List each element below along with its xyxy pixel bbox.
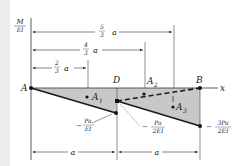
dim-23-num: 2 xyxy=(54,59,59,66)
value-1-num: Pa xyxy=(83,117,92,124)
dim-23-var: a xyxy=(64,64,69,73)
point-a-label: A xyxy=(20,83,28,93)
value-3-sign: − xyxy=(206,123,212,131)
y-label-num: M xyxy=(15,18,24,26)
value-1-sign: − xyxy=(76,122,82,130)
x-axis-label: x xyxy=(220,83,225,93)
point-d-label: D xyxy=(112,75,120,85)
y-label-den: EI xyxy=(16,26,24,33)
value-2-sign: − xyxy=(142,123,148,131)
value-3-den: 2EI xyxy=(217,127,229,134)
area-a3-sub: 3 xyxy=(183,107,187,114)
value-2-den: 2EI xyxy=(152,127,164,134)
area-a2-label: A xyxy=(146,76,154,86)
moment-area-diagram: M EI 5 3 a 4 3 a 2 3 a a a A D B x A 1 A… xyxy=(0,0,244,166)
value-1-den: EI xyxy=(84,125,92,132)
dim-43-var: a xyxy=(93,46,98,55)
dim-53-den: 3 xyxy=(100,31,104,38)
point-b-label: B xyxy=(195,75,203,85)
dim-53-var: a xyxy=(112,28,117,37)
area-a2-sub: 2 xyxy=(153,81,158,88)
value-2-num: Pa xyxy=(153,119,162,126)
area-a1-label: A xyxy=(91,92,99,102)
dim-bottom-right: a xyxy=(155,148,160,157)
dim-bottom-left: a xyxy=(71,148,76,157)
dim-23-den: 3 xyxy=(55,67,59,74)
area-a1-sub: 1 xyxy=(99,97,103,104)
dim-43-den: 3 xyxy=(84,49,88,56)
dim-53-num: 5 xyxy=(100,23,104,30)
value-3-num: 3Pa xyxy=(217,119,229,126)
dim-43-num: 4 xyxy=(83,41,88,48)
area-a3-label: A xyxy=(175,102,183,112)
